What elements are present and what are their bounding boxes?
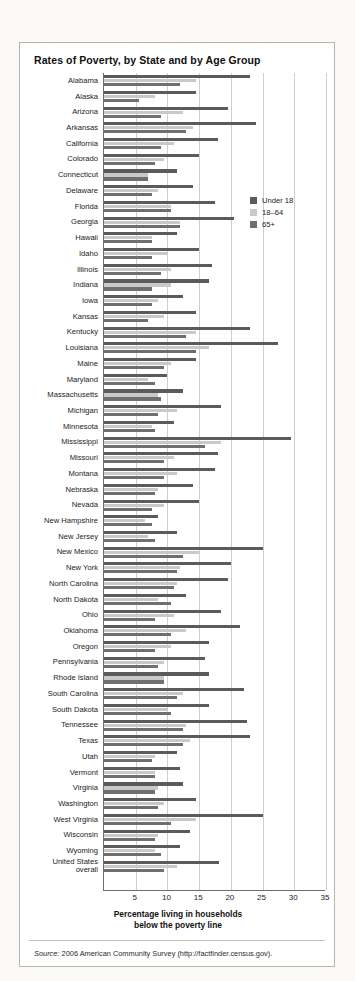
bar-65- [104, 319, 148, 322]
category-label: Delaware [66, 183, 98, 199]
bar-group [104, 843, 325, 859]
gridline-35 [326, 73, 327, 890]
bar-group [104, 262, 325, 278]
bar-group-row [104, 309, 325, 325]
bar-65- [104, 539, 155, 542]
category-label: Pennsylvania [53, 655, 98, 671]
category-label-row: Nebraska [20, 482, 103, 498]
category-label: Colorado [67, 152, 98, 168]
bar-group-row [104, 277, 325, 293]
bar-group-row [104, 717, 325, 733]
category-label-row: New Jersey [20, 529, 103, 545]
bar-under-18 [104, 735, 250, 738]
bar-18-64 [104, 425, 152, 428]
category-label: New York [66, 560, 98, 576]
category-label-row: Connecticut [20, 167, 103, 183]
bar-under-18 [104, 389, 183, 392]
bar-group [104, 828, 325, 844]
bar-group [104, 670, 325, 686]
bar-under-18 [104, 185, 193, 188]
legend-swatch-under-18 [250, 197, 257, 204]
bar-65- [104, 209, 171, 212]
bar-65- [104, 445, 205, 448]
bar-65- [104, 162, 155, 165]
bar-group-row [104, 765, 325, 781]
category-label-row: Nevada [20, 497, 103, 513]
bar-group-row [104, 702, 325, 718]
bar-18-64 [104, 158, 164, 161]
category-label: Minnesota [63, 419, 98, 435]
category-label: Washington [58, 796, 98, 812]
category-label: Georgia [71, 214, 98, 230]
bar-under-18 [104, 657, 205, 660]
category-label-row: South Carolina [20, 686, 103, 702]
bar-under-18 [104, 672, 209, 675]
bar-65- [104, 460, 164, 463]
bar-group-row [104, 560, 325, 576]
bar-under-18 [104, 767, 180, 770]
category-label: Oklahoma [63, 623, 98, 639]
bar-under-18 [104, 437, 291, 440]
bar-65- [104, 256, 152, 259]
bar-group-row [104, 152, 325, 168]
bar-65- [104, 555, 183, 558]
category-label-row: Louisiana [20, 340, 103, 356]
bar-group-row [104, 356, 325, 372]
category-label-row: Alabama [20, 73, 103, 89]
bar-under-18 [104, 531, 177, 534]
category-label: Idaho [79, 246, 98, 262]
category-label-row: Pennsylvania [20, 655, 103, 671]
bar-18-64 [104, 472, 177, 475]
bar-65- [104, 680, 164, 683]
bar-18-64 [104, 205, 171, 208]
bar-group-row [104, 325, 325, 341]
figure-page: Rates of Poverty, by State and by Age Gr… [0, 0, 355, 981]
bar-group [104, 246, 325, 262]
bar-under-18 [104, 264, 212, 267]
category-label-row: Arizona [20, 104, 103, 120]
category-label-row: Arkansas [20, 120, 103, 136]
category-label: Texas [78, 733, 98, 749]
bar-group [104, 167, 325, 183]
bar-under-18 [104, 515, 158, 518]
category-label-row: Hawaii [20, 230, 103, 246]
bar-under-18 [104, 311, 196, 314]
bar-18-64 [104, 252, 167, 255]
category-label-row: Mississippi [20, 435, 103, 451]
bar-65- [104, 633, 171, 636]
bar-18-64 [104, 315, 164, 318]
bar-group [104, 104, 325, 120]
bar-group [104, 560, 325, 576]
bar-65- [104, 696, 177, 699]
bar-65- [104, 350, 196, 353]
bar-under-18 [104, 342, 278, 345]
bar-group-row [104, 796, 325, 812]
bar-group-row [104, 120, 325, 136]
source-text: 2006 American Community Survey (http://f… [62, 949, 273, 958]
category-label: Arkansas [66, 120, 98, 136]
bar-18-64 [104, 645, 171, 648]
category-label-row: New York [20, 560, 103, 576]
bar-65- [104, 759, 152, 762]
category-label-row: West Virginia [20, 812, 103, 828]
bar-group [104, 607, 325, 623]
bar-18-64 [104, 283, 171, 286]
category-label-row: Kentucky [20, 325, 103, 341]
bar-under-18 [104, 782, 183, 785]
x-tick-label-20: 20 [225, 893, 234, 902]
legend-item-18-64: 18–64 [250, 208, 293, 217]
bar-65- [104, 602, 171, 605]
bar-18-64 [104, 79, 196, 82]
bar-group-row [104, 812, 325, 828]
bar-under-18 [104, 75, 250, 78]
figure-title: Rates of Poverty, by State and by Age Gr… [34, 54, 261, 66]
category-label: Michigan [68, 403, 98, 419]
bar-18-64 [104, 488, 158, 491]
bar-group-row [104, 497, 325, 513]
category-label-row: Virginia [20, 780, 103, 796]
category-label-row: Tennessee [20, 717, 103, 733]
bar-under-18 [104, 374, 167, 377]
category-label: Tennessee [61, 717, 98, 733]
plot-area: Under 18 18–64 65+ [103, 73, 325, 891]
bar-18-64 [104, 268, 171, 271]
